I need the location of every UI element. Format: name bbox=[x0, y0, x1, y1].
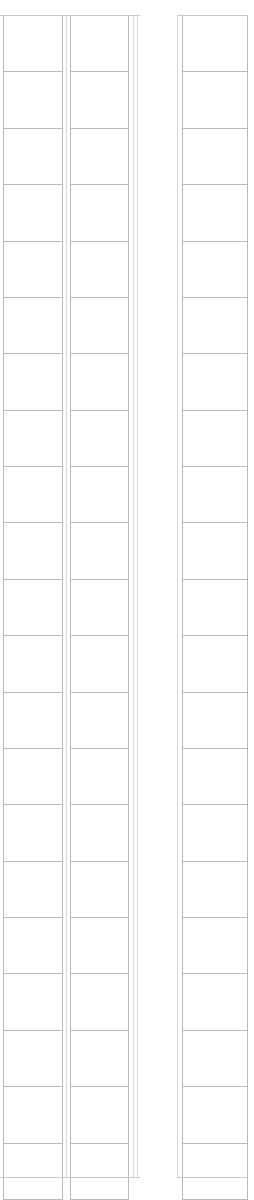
table-row[interactable] bbox=[4, 297, 63, 353]
table-row[interactable] bbox=[183, 748, 248, 804]
table-cell[interactable] bbox=[183, 410, 248, 466]
table-cell[interactable] bbox=[183, 1030, 248, 1086]
table-cell[interactable] bbox=[71, 692, 129, 748]
table-cell[interactable] bbox=[4, 1143, 63, 1199]
table-row[interactable] bbox=[4, 467, 63, 523]
table-row[interactable] bbox=[71, 692, 129, 748]
table-row[interactable] bbox=[183, 918, 248, 974]
table-row[interactable] bbox=[71, 1087, 129, 1143]
table-cell[interactable] bbox=[183, 523, 248, 579]
table-cell[interactable] bbox=[4, 861, 63, 917]
left-table-column-1[interactable] bbox=[3, 15, 63, 1178]
table-row[interactable] bbox=[4, 748, 63, 804]
table-row[interactable] bbox=[183, 354, 248, 410]
table-row[interactable] bbox=[71, 805, 129, 861]
table-cell[interactable] bbox=[4, 241, 63, 297]
table-row[interactable] bbox=[71, 1143, 129, 1199]
table-cell[interactable] bbox=[71, 974, 129, 1030]
table-cell[interactable] bbox=[183, 128, 248, 184]
table-cell[interactable] bbox=[71, 523, 129, 579]
right-table-column-1[interactable] bbox=[182, 15, 248, 1178]
table-row[interactable] bbox=[4, 861, 63, 917]
table-row[interactable] bbox=[71, 410, 129, 466]
table-cell[interactable] bbox=[183, 692, 248, 748]
table-cell[interactable] bbox=[183, 636, 248, 692]
table-cell[interactable] bbox=[71, 128, 129, 184]
table-row[interactable] bbox=[71, 636, 129, 692]
table-cell[interactable] bbox=[4, 185, 63, 241]
table-cell[interactable] bbox=[183, 354, 248, 410]
table-cell[interactable] bbox=[71, 805, 129, 861]
table-cell[interactable] bbox=[71, 16, 129, 72]
table-row[interactable] bbox=[183, 467, 248, 523]
table-cell[interactable] bbox=[71, 297, 129, 353]
table-cell[interactable] bbox=[4, 1087, 63, 1143]
table-cell[interactable] bbox=[183, 467, 248, 523]
left-table-column-2[interactable] bbox=[70, 15, 129, 1178]
table-row[interactable] bbox=[4, 974, 63, 1030]
table-row[interactable] bbox=[4, 72, 63, 128]
table-row[interactable] bbox=[4, 636, 63, 692]
table-cell[interactable] bbox=[71, 1087, 129, 1143]
table-cell[interactable] bbox=[183, 974, 248, 1030]
table-row[interactable] bbox=[71, 523, 129, 579]
table-cell[interactable] bbox=[4, 974, 63, 1030]
table-cell[interactable] bbox=[71, 748, 129, 804]
table-row[interactable] bbox=[71, 467, 129, 523]
table-row[interactable] bbox=[183, 1087, 248, 1143]
table-row[interactable] bbox=[183, 72, 248, 128]
table-cell[interactable] bbox=[71, 918, 129, 974]
table-row[interactable] bbox=[71, 861, 129, 917]
table-cell[interactable] bbox=[71, 579, 129, 635]
table-row[interactable] bbox=[71, 354, 129, 410]
table-cell[interactable] bbox=[183, 748, 248, 804]
table-row[interactable] bbox=[183, 410, 248, 466]
table-cell[interactable] bbox=[4, 748, 63, 804]
table-row[interactable] bbox=[183, 185, 248, 241]
table-cell[interactable] bbox=[4, 805, 63, 861]
table-row[interactable] bbox=[4, 1143, 63, 1199]
table-row[interactable] bbox=[4, 805, 63, 861]
table-row[interactable] bbox=[71, 579, 129, 635]
table-cell[interactable] bbox=[71, 1030, 129, 1086]
table-row[interactable] bbox=[4, 16, 63, 72]
table-row[interactable] bbox=[183, 805, 248, 861]
table-row[interactable] bbox=[71, 241, 129, 297]
table-cell[interactable] bbox=[71, 467, 129, 523]
table-row[interactable] bbox=[71, 1030, 129, 1086]
table-cell[interactable] bbox=[71, 1143, 129, 1199]
table-cell[interactable] bbox=[4, 918, 63, 974]
table-row[interactable] bbox=[183, 241, 248, 297]
table-row[interactable] bbox=[4, 241, 63, 297]
table-row[interactable] bbox=[71, 748, 129, 804]
table-row[interactable] bbox=[71, 918, 129, 974]
table-cell[interactable] bbox=[71, 185, 129, 241]
table-cell[interactable] bbox=[4, 523, 63, 579]
table-cell[interactable] bbox=[71, 354, 129, 410]
table-cell[interactable] bbox=[4, 16, 63, 72]
table-cell[interactable] bbox=[4, 636, 63, 692]
table-cell[interactable] bbox=[71, 861, 129, 917]
table-row[interactable] bbox=[183, 579, 248, 635]
table-cell[interactable] bbox=[183, 861, 248, 917]
table-row[interactable] bbox=[4, 1087, 63, 1143]
table-row[interactable] bbox=[71, 297, 129, 353]
table-row[interactable] bbox=[183, 128, 248, 184]
table-row[interactable] bbox=[183, 861, 248, 917]
table-row[interactable] bbox=[4, 579, 63, 635]
table-cell[interactable] bbox=[4, 692, 63, 748]
table-row[interactable] bbox=[183, 523, 248, 579]
table-row[interactable] bbox=[183, 974, 248, 1030]
table-row[interactable] bbox=[4, 354, 63, 410]
table-row[interactable] bbox=[183, 297, 248, 353]
table-cell[interactable] bbox=[183, 1087, 248, 1143]
table-cell[interactable] bbox=[183, 16, 248, 72]
table-cell[interactable] bbox=[183, 805, 248, 861]
table-cell[interactable] bbox=[4, 72, 63, 128]
table-row[interactable] bbox=[183, 16, 248, 72]
table-cell[interactable] bbox=[71, 410, 129, 466]
table-row[interactable] bbox=[71, 16, 129, 72]
table-row[interactable] bbox=[71, 128, 129, 184]
table-cell[interactable] bbox=[4, 1030, 63, 1086]
table-cell[interactable] bbox=[183, 241, 248, 297]
